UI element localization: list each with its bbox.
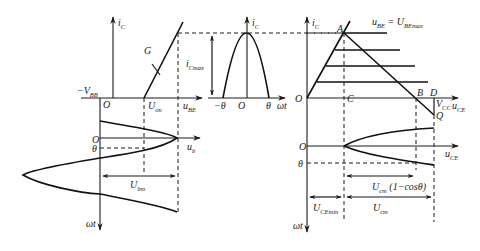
transfer-characteristic-panel: G iC O −VBB Uon uBE bbox=[77, 17, 345, 215]
point-b-label: B bbox=[417, 87, 423, 98]
point-q-label: Q bbox=[436, 110, 444, 121]
point-d-label: D bbox=[429, 87, 438, 98]
neg-vbb-label: −VBB bbox=[77, 85, 98, 98]
input-theta-label: θ bbox=[92, 143, 97, 154]
ub-axis-label: ub bbox=[187, 141, 196, 154]
output-wave-upper bbox=[344, 128, 434, 146]
uon-label: Uon bbox=[148, 100, 162, 113]
point-c-label: C bbox=[347, 93, 354, 104]
input-waveform-panel: O θ ub Ubm ωt bbox=[23, 98, 200, 230]
output-wave-lower bbox=[344, 146, 434, 165]
ube-equals-ubemax-label: uBE = UBEmax bbox=[372, 16, 423, 29]
neg-theta-label: −θ bbox=[214, 100, 226, 111]
dynamic-load-line bbox=[344, 33, 434, 115]
ucm-label: Ucm bbox=[373, 202, 388, 215]
icmax-label: iCmax bbox=[186, 58, 204, 71]
transfer-curve-g bbox=[144, 22, 183, 98]
origin-label: O bbox=[103, 99, 110, 110]
ubm-label: Ubm bbox=[130, 179, 145, 192]
theta-label: θ bbox=[266, 100, 271, 111]
collector-current-pulse-panel: iCmax iC −θ O θ ωt bbox=[186, 17, 287, 111]
output-origin-label: O bbox=[295, 93, 302, 104]
point-a-label: A bbox=[336, 23, 344, 34]
curve-label-g: G bbox=[144, 45, 151, 56]
wt-label-input: ωt bbox=[86, 218, 96, 229]
wt-label-output: ωt bbox=[293, 220, 303, 231]
ic-axis-label: iC bbox=[118, 17, 126, 30]
uce-wave-axis-label: uCE bbox=[445, 148, 458, 161]
pulse-origin-label: O bbox=[238, 100, 245, 111]
ic-pulse-axis-label: iC bbox=[252, 17, 260, 30]
uce-axis-label: uCE bbox=[452, 100, 465, 113]
ube-axis-label: uBE bbox=[183, 100, 196, 113]
ucemin-label: UCEmin bbox=[313, 202, 338, 215]
ic-output-axis-label: iC bbox=[312, 17, 320, 30]
output-wave-origin-label: O bbox=[299, 141, 306, 152]
ucm-1-cos-theta-label: Ucm (1−cosθ) bbox=[372, 181, 427, 194]
wt-label-top: ωt bbox=[277, 100, 287, 111]
output-theta-label: θ bbox=[298, 158, 303, 169]
current-pulse-curve bbox=[223, 33, 269, 98]
class-c-amplifier-diagram: G iC O −VBB Uon uBE iCmax iC −θ O θ ωt bbox=[0, 0, 480, 251]
